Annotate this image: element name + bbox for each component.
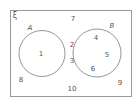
element-10: 10	[68, 86, 77, 93]
venn-diagram: ξ A B 7 1 2 3 4 5 6 8 9 10	[0, 0, 139, 102]
element-3: 3	[70, 58, 74, 65]
element-2: 2	[70, 42, 74, 49]
element-9: 9	[118, 80, 122, 87]
element-6: 6	[91, 66, 95, 73]
element-8: 8	[19, 77, 23, 84]
element-1: 1	[39, 51, 43, 58]
universal-set-symbol: ξ	[13, 12, 17, 20]
element-4: 4	[94, 35, 98, 42]
element-5: 5	[105, 52, 109, 59]
set-a-label: A	[28, 25, 33, 32]
element-7: 7	[71, 16, 75, 23]
set-b-label: B	[110, 23, 115, 30]
